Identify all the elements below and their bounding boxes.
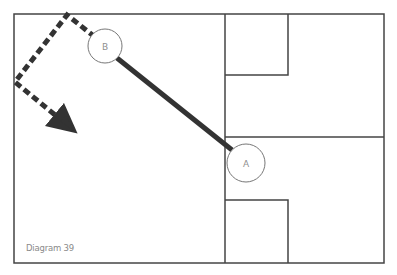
top-small-room xyxy=(225,14,288,75)
point-b: B xyxy=(88,29,122,63)
bottom-small-room xyxy=(225,200,288,263)
solid-path-b-to-a xyxy=(117,58,232,150)
point-a-label: A xyxy=(243,159,250,169)
floor-plan-diagram: B A xyxy=(0,0,397,275)
outer-wall xyxy=(14,14,384,263)
point-b-label: B xyxy=(102,42,108,52)
point-a: A xyxy=(227,144,265,182)
diagram-caption: Diagram 39 xyxy=(26,243,74,253)
dashed-path xyxy=(15,15,95,124)
